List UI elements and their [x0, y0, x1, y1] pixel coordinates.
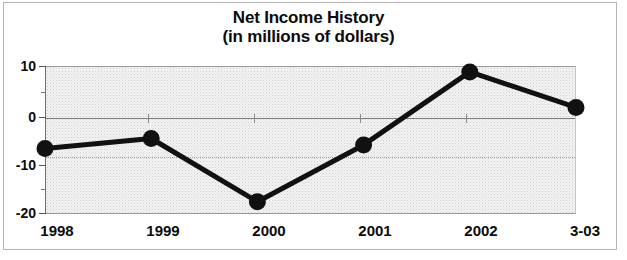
zero-axis-tick-1999	[148, 114, 149, 123]
chart-title-line-1: Net Income History	[0, 8, 617, 27]
gridline-minus-10	[46, 157, 575, 158]
y-axis-label-10: 10	[0, 58, 36, 74]
chart-figure: Net Income History (in millions of dolla…	[0, 0, 627, 260]
y-tick-minus-5	[41, 142, 46, 143]
y-tick-minus-10	[39, 165, 46, 166]
y-axis-label-minus-20: -20	[0, 205, 36, 221]
x-axis-label-2002: 2002	[436, 222, 526, 239]
chart-title: Net Income History (in millions of dolla…	[0, 8, 617, 46]
plot-area	[45, 66, 576, 214]
y-tick-0	[39, 117, 46, 118]
y-axis-label-0: 0	[0, 109, 36, 125]
zero-axis-tick-2001	[360, 114, 361, 123]
zero-axis-tick-2000	[254, 114, 255, 123]
x-axis-label-1999: 1999	[118, 222, 208, 239]
y-tick-minus-20	[39, 213, 46, 214]
x-axis-label-3-03: 3-03	[540, 222, 627, 239]
y-tick-10	[39, 66, 46, 67]
y-tick-5	[41, 92, 46, 93]
zero-axis-tick-2002	[466, 114, 467, 123]
x-axis-label-2000: 2000	[224, 222, 314, 239]
y-tick-minus-15	[41, 189, 46, 190]
x-axis-label-2001: 2001	[330, 222, 420, 239]
chart-title-subtitle: (in millions of dollars)	[0, 27, 617, 46]
x-axis-label-1998: 1998	[12, 222, 102, 239]
y-axis-label-minus-10: -10	[0, 157, 36, 173]
gridline-zero	[46, 118, 575, 119]
